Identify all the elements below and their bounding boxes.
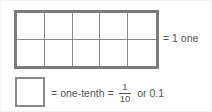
- whole-label: = 1 one: [163, 32, 198, 45]
- grid-cell: [128, 13, 156, 40]
- grid-cell: [100, 40, 128, 67]
- fraction-numerator: 1: [121, 82, 128, 92]
- grid-cell: [100, 13, 128, 40]
- tenth-square: [15, 77, 45, 107]
- ten-frame-grid: [14, 10, 159, 69]
- grid-cell: [45, 13, 73, 40]
- grid-cell: [73, 40, 101, 67]
- grid-cell: [45, 40, 73, 67]
- grid-cell: [17, 40, 45, 67]
- grid-cell: [17, 13, 45, 40]
- tenth-caption: = one-tenth = 1 10 or 0.1: [51, 83, 164, 103]
- whole-row: = 1 one: [1, 1, 212, 73]
- tenth-word-label: one-tenth: [60, 87, 104, 100]
- equals-sign-second: =: [108, 87, 114, 100]
- grid-cell: [128, 40, 156, 67]
- fraction-denominator: 10: [119, 94, 132, 104]
- equals-sign-leading: =: [51, 87, 57, 100]
- tenth-row: = one-tenth = 1 10 or 0.1: [1, 73, 212, 112]
- tenths-place-value-diagram: = 1 one = one-tenth = 1 10 or 0.1: [0, 0, 212, 112]
- grid-cell: [73, 13, 101, 40]
- decimal-equivalent-label: or 0.1: [137, 87, 164, 100]
- fraction-one-tenth: 1 10: [119, 82, 132, 104]
